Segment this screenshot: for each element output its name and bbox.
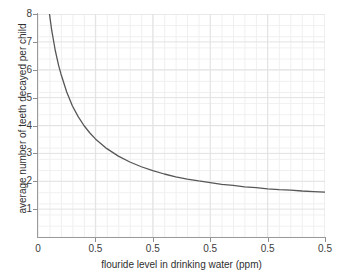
x-tick-label: 0.5 <box>190 244 230 254</box>
curve-path <box>49 14 325 192</box>
x-tick-label: 0.5 <box>248 244 288 254</box>
x-tick-mark <box>325 238 326 242</box>
y-tick-mark <box>33 14 38 15</box>
y-tick-mark <box>33 70 38 71</box>
x-tick-mark <box>153 238 154 242</box>
plot-area <box>38 14 325 237</box>
chart-container: 12345678 00.50.50.50.50.5 average number… <box>0 0 339 275</box>
y-tick-mark <box>33 42 38 43</box>
y-axis-title: average number of teeth decayed per chil… <box>17 9 28 229</box>
x-axis-line <box>37 237 326 238</box>
y-tick-mark <box>33 153 38 154</box>
data-curve <box>38 14 325 237</box>
x-tick-mark <box>268 238 269 242</box>
y-tick-mark <box>33 98 38 99</box>
x-tick-label: 0.5 <box>305 244 339 254</box>
x-tick-mark <box>210 238 211 242</box>
x-tick-label: 0.5 <box>133 244 173 254</box>
y-tick-mark <box>33 126 38 127</box>
x-tick-mark <box>95 238 96 242</box>
y-tick-mark <box>33 209 38 210</box>
x-tick-label: 0 <box>18 244 58 254</box>
y-tick-mark <box>33 181 38 182</box>
x-tick-label: 0.5 <box>75 244 115 254</box>
x-axis-title: flouride level in drinking water (ppm) <box>38 259 325 270</box>
